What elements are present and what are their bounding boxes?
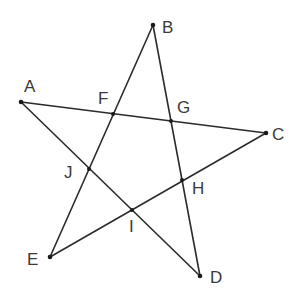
vertices — [19, 23, 269, 279]
point-g — [169, 119, 173, 123]
point-a — [19, 100, 24, 105]
segment-eb — [50, 25, 153, 257]
point-e — [48, 255, 53, 260]
point-i — [130, 208, 134, 212]
label-g: G — [177, 98, 190, 117]
label-f: F — [98, 89, 108, 108]
point-b — [151, 23, 156, 28]
label-i: I — [129, 217, 134, 236]
segment-bd — [153, 25, 200, 276]
point-c — [264, 131, 269, 136]
labels: A B C D E F G H I J — [24, 18, 284, 287]
label-b: B — [162, 18, 173, 37]
segments — [21, 25, 266, 276]
label-c: C — [272, 125, 284, 144]
label-j: J — [64, 163, 73, 182]
point-h — [180, 178, 184, 182]
label-e: E — [27, 250, 38, 269]
pentagram-diagram: A B C D E F G H I J — [0, 0, 297, 308]
segment-ac — [21, 102, 266, 133]
label-h: H — [192, 179, 204, 198]
label-d: D — [210, 268, 222, 287]
point-f — [111, 112, 115, 116]
point-d — [198, 274, 203, 279]
label-a: A — [24, 77, 36, 96]
segment-ce — [50, 133, 266, 257]
segment-da — [21, 102, 200, 276]
point-j — [87, 167, 91, 171]
